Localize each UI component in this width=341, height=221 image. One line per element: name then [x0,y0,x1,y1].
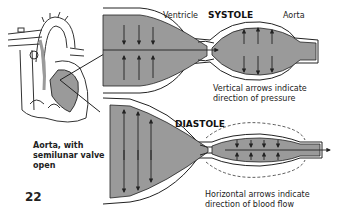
heart-label-line2: semilunar valve [33,151,105,161]
page-number: 22 [25,192,42,202]
systole-caption-line2: direction of pressure [213,94,295,104]
heart-label-line1: Aorta, with [33,141,83,151]
label-aorta: Aorta [283,11,305,21]
systole-caption-line1: Vertical arrows indicate [213,84,307,94]
diastole-title: DIASTOLE [175,119,225,129]
diagram-canvas [0,0,341,221]
systole-title: SYSTOLE [208,10,253,20]
diastole-caption-line1: Horizontal arrows indicate [205,190,310,200]
diastole-diagram [103,98,330,204]
diastole-caption-line2: direction of blood flow [205,200,294,210]
heart-label-line3: open [33,161,55,171]
label-ventricle: Ventricle [163,11,198,21]
heart-illustration [8,12,104,122]
